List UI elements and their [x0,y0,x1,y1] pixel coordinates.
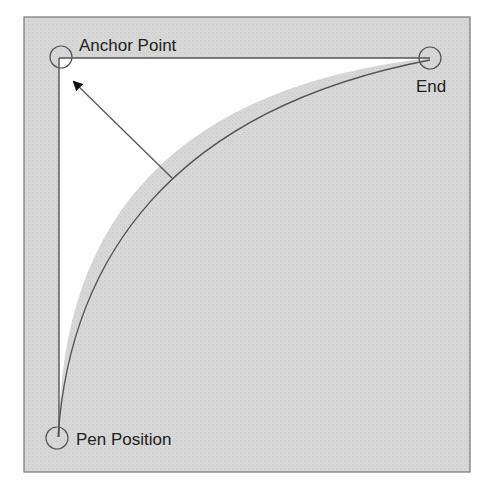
anchor-point-label: Anchor Point [79,36,177,55]
bezier-diagram: Anchor Point End Pen Position [0,0,488,498]
pen-position-label: Pen Position [76,430,171,449]
end-label: End [416,77,446,96]
